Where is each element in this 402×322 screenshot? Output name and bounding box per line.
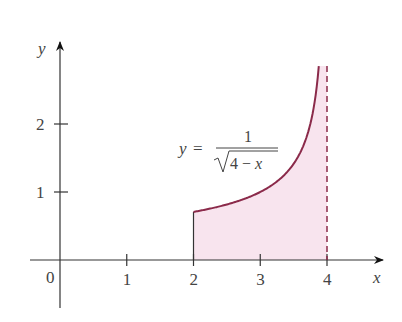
formula-lhs: y: [177, 139, 187, 158]
x-tick-label: 2: [190, 270, 199, 289]
formula-numerator: 1: [244, 128, 252, 145]
function-formula: y = 1 4 − x: [177, 128, 278, 172]
y-axis-label: y: [36, 39, 46, 58]
origin-label: 0: [46, 268, 55, 287]
x-tick-label: 1: [123, 270, 132, 289]
y-tick-label: 2: [36, 115, 45, 134]
y-tick-label: 1: [36, 183, 45, 202]
x-tick-label: 4: [323, 270, 332, 289]
x-axis-label: x: [372, 268, 381, 287]
formula-equals: =: [193, 139, 203, 158]
y-axis-ticks: 12: [36, 115, 68, 202]
x-tick-label: 3: [256, 270, 265, 289]
function-graph: 1234 12 0 x y y = 1 4 − x: [0, 0, 402, 322]
formula-denominator: 4 − x: [230, 155, 262, 172]
